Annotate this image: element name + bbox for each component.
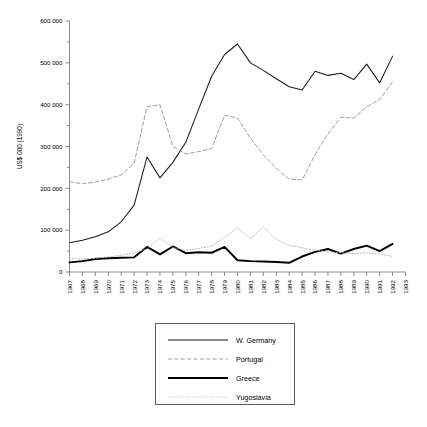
x-axis-tick-label: 1980	[234, 279, 241, 293]
x-axis-tick-label: 1972	[131, 279, 138, 293]
x-axis-tick-label: 1973	[143, 279, 150, 293]
x-axis-tick-label: 1990	[363, 279, 370, 293]
x-axis-tick-label: 1983	[273, 279, 280, 293]
y-axis-tick-label: 200 000	[40, 185, 63, 192]
series-line-greece	[70, 244, 393, 263]
chart-legend: W. GermanyPortugalGreeceYugoslavia	[0, 318, 427, 427]
x-axis-tick-label: 1981	[247, 279, 254, 293]
x-axis-tick-label: 1975	[169, 279, 176, 293]
y-axis-tick-label: 100 000	[40, 226, 63, 233]
series-line-w-germany	[70, 44, 393, 243]
x-axis-tick-label: 1986	[311, 279, 318, 293]
x-axis-tick-label: 1987	[324, 279, 331, 293]
x-axis-tick-label: 1976	[182, 279, 189, 293]
x-axis-tick-label: 1979	[221, 279, 228, 293]
legend-label-yugoslavia: Yugoslavia	[236, 393, 271, 402]
legend-label-portugal: Portugal	[236, 355, 263, 364]
x-axis-tick-label: 1991	[376, 279, 383, 293]
y-axis-tick-label: 300 000	[40, 143, 63, 150]
legend-label-w-germany: W. Germany	[236, 336, 276, 345]
line-chart: 600 000500 000400 000300 000200 000100 0…	[0, 0, 427, 320]
x-axis-tick-label: 1969	[92, 279, 99, 293]
x-axis-tick-label: 1978	[208, 279, 215, 293]
x-axis-tick-label: 1974	[156, 279, 163, 293]
chart-canvas: 600 000500 000400 000300 000200 000100 0…	[0, 0, 427, 320]
x-axis-tick-label: 1977	[195, 279, 202, 293]
y-axis: 600 000500 000400 000300 000200 000100 0…	[40, 17, 69, 275]
y-axis-tick-label: 600 000	[40, 17, 63, 24]
x-axis-tick-label: 1992	[389, 279, 396, 293]
x-axis-tick-label: 1993	[402, 279, 409, 293]
x-axis-tick-label: 1985	[299, 279, 306, 293]
y-axis-tick-label: 0	[59, 268, 63, 275]
y-axis-tick-label: 400 000	[40, 101, 63, 108]
x-axis-tick-label: 1988	[337, 279, 344, 293]
series-line-portugal	[70, 82, 393, 184]
legend-label-greece: Greece	[236, 374, 260, 383]
legend-canvas: W. GermanyPortugalGreeceYugoslavia	[0, 318, 427, 427]
x-axis-tick-label: 1984	[286, 279, 293, 293]
x-axis-tick-label: 1967	[66, 279, 73, 293]
x-axis-tick-label: 1989	[350, 279, 357, 293]
x-axis-tick-label: 1968	[79, 279, 86, 293]
series-layer	[70, 44, 393, 263]
x-axis-tick-label: 1971	[118, 279, 125, 293]
y-axis-tick-label: 500 000	[40, 59, 63, 66]
y-axis-title: US$ 000 (1990)	[16, 124, 24, 169]
y-axis-title-text: US$ 000 (1990)	[16, 124, 24, 169]
x-axis-tick-label: 1970	[105, 279, 112, 293]
x-axis-tick-label: 1982	[260, 279, 267, 293]
chart-page: 600 000500 000400 000300 000200 000100 0…	[0, 0, 427, 427]
x-axis: 1967196819691970197119721973197419751976…	[66, 272, 409, 294]
